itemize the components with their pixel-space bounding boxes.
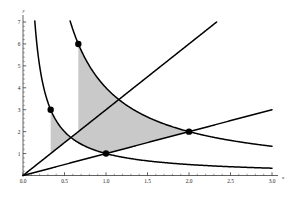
data-point-2 xyxy=(103,150,109,156)
y-axis-label: y xyxy=(21,8,25,13)
y-tick-label-4: 5 xyxy=(18,63,21,69)
x-tick-label-1: 0.5 xyxy=(61,178,68,184)
data-point-1 xyxy=(75,41,81,47)
y-tick-label-2: 3 xyxy=(18,107,21,113)
data-point-0 xyxy=(47,107,53,113)
x-tick-label-0: 0.0 xyxy=(20,178,27,184)
y-tick-label-1: 2 xyxy=(18,129,21,135)
x-tick-label-3: 1.5 xyxy=(144,178,151,184)
axes: 0.00.51.01.52.02.53.01234567xy xyxy=(18,8,285,184)
plot-canvas: 0.00.51.01.52.02.53.01234567xy xyxy=(0,0,299,197)
curve-0 xyxy=(35,21,272,168)
y-tick-label-0: 1 xyxy=(18,151,21,157)
x-tick-label-2: 1.0 xyxy=(103,178,110,184)
x-axis-label: x xyxy=(281,175,285,180)
x-tick-label-4: 2.0 xyxy=(186,178,193,184)
x-tick-label-5: 2.5 xyxy=(227,178,234,184)
math-plot: 0.00.51.01.52.02.53.01234567xy xyxy=(0,0,299,197)
x-tick-label-6: 3.0 xyxy=(269,178,276,184)
curves xyxy=(23,21,272,176)
y-tick-label-5: 6 xyxy=(18,41,21,47)
y-tick-label-3: 4 xyxy=(18,85,21,91)
y-tick-label-6: 7 xyxy=(18,19,21,25)
data-point-3 xyxy=(186,128,192,134)
curve-3 xyxy=(23,22,217,176)
